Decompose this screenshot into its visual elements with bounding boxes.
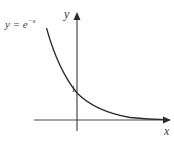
y-axis-arrow-icon: [74, 12, 81, 20]
curve-label-exponent: −x: [28, 17, 36, 25]
curve-label: y = e−x: [5, 18, 36, 30]
y-intercept-label: 1: [71, 85, 76, 94]
curve-e-neg-x: [47, 28, 167, 120]
curve-label-main: y = e: [5, 18, 28, 30]
y-axis-label: y: [64, 8, 69, 20]
x-axis-label: x: [164, 125, 169, 137]
